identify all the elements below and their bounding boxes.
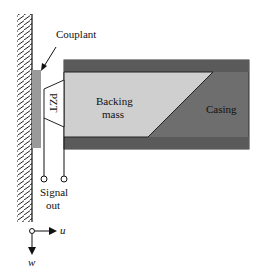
wall: [17, 14, 32, 222]
signal-out-label-line1: Signal: [40, 186, 68, 198]
transducer-diagram: Couplant PZT Backing mass Casing Signal …: [0, 0, 272, 273]
casing-label: Casing: [206, 103, 237, 115]
pzt-label: PZT: [48, 93, 60, 113]
signal-wires: [41, 118, 67, 182]
signal-terminal-right: [61, 176, 67, 182]
coordinate-axes: [28, 227, 57, 255]
backing-mass-label-line1: Backing: [96, 95, 133, 107]
signal-out-label-line2: out: [46, 199, 60, 211]
couplant-layer: [32, 70, 41, 148]
signal-terminal-left: [41, 176, 47, 182]
w-arrow-icon: [28, 247, 36, 255]
u-axis-label: u: [60, 224, 66, 236]
couplant-label: Couplant: [56, 28, 96, 40]
w-axis-label: w: [28, 256, 36, 268]
couplant-arrow: [41, 47, 56, 71]
backing-mass-label-line2: mass: [102, 108, 124, 120]
u-arrow-icon: [49, 227, 57, 235]
